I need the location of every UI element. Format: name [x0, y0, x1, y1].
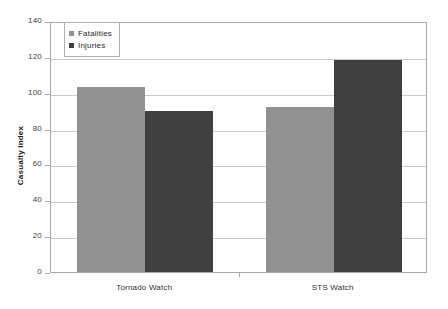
legend-entry: Fatalities — [69, 28, 112, 39]
legend-swatch-injuries — [69, 43, 74, 48]
y-axis-tick-label: 0 — [37, 267, 42, 276]
legend-label: Injuries — [78, 41, 105, 50]
x-axis-category-label: Tornado Watch — [84, 283, 204, 292]
y-axis-tick-label: 80 — [33, 124, 42, 133]
bar-chart-figure: Casualty Index 020406080100120140 Tornad… — [0, 0, 448, 309]
y-axis: 020406080100120140 — [0, 22, 50, 273]
y-axis-tick-label: 60 — [33, 159, 42, 168]
y-axis-tick-label: 140 — [28, 16, 42, 25]
legend-swatch-fatalities — [69, 31, 74, 36]
plot-area — [50, 22, 427, 273]
bar — [145, 111, 213, 272]
y-axis-tick-label: 120 — [28, 52, 42, 61]
legend-entry: Injuries — [69, 40, 112, 51]
bar — [266, 107, 334, 272]
x-axis-category-label: STS Watch — [273, 283, 393, 292]
x-axis-tick-mark — [239, 273, 240, 277]
y-axis-tick-mark — [45, 273, 50, 274]
chart-legend: FatalitiesInjuries — [64, 22, 120, 57]
y-axis-tick-label: 20 — [33, 231, 42, 240]
y-axis-tick-label: 40 — [33, 195, 42, 204]
legend-label: Fatalities — [78, 29, 112, 38]
bar — [334, 60, 402, 272]
bar — [77, 87, 145, 272]
y-axis-tick-label: 100 — [28, 88, 42, 97]
x-axis: Tornado WatchSTS Watch — [50, 283, 427, 297]
